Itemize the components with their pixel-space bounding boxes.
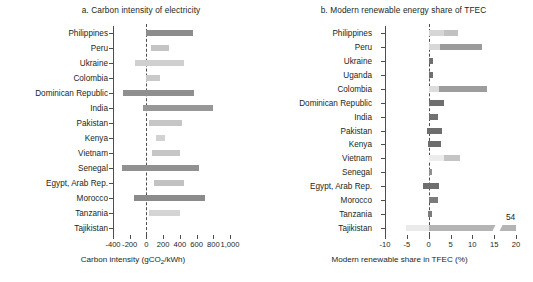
panel-a-category-labels: PhilippinesPeruUkraineColombiaDominican … [0, 26, 108, 235]
panel-a-xtick-label: 1,000 [220, 240, 239, 249]
range-bar [146, 30, 193, 36]
panel-b-ytick [381, 103, 385, 104]
panel-a-ytick [109, 198, 113, 199]
range-bar-segment-left [429, 44, 440, 50]
panel-a-ytick [109, 123, 113, 124]
panel-a-ytick [109, 183, 113, 184]
panel-a-title: a. Carbon intensity of electricity [0, 5, 274, 15]
panel-a-xtick-label: 200 [157, 240, 170, 249]
category-label: India [90, 104, 108, 113]
category-label: Uganda [343, 70, 372, 79]
panel-b-x-axis-title: Modern renewable share in TFEC (%) [266, 255, 533, 264]
range-bar [156, 135, 165, 141]
panel-b-ytick [381, 117, 385, 118]
panel-b-ytick [381, 89, 385, 90]
range-bar [123, 90, 194, 96]
category-label: Vietnam [78, 148, 108, 157]
panel-a-x-axis-title: Carbon intensity (gCO2/kWh) [0, 255, 266, 264]
panel-b-ytick [381, 61, 385, 62]
panel-a-zero-reference-line [146, 24, 147, 235]
panel-a-xtick-label: 800 [207, 240, 220, 249]
category-label: Tajikistan [338, 224, 372, 233]
panel-a-xtick [197, 235, 198, 239]
category-label: Ukraine [344, 56, 372, 65]
range-bar [429, 72, 433, 78]
range-bar [429, 114, 439, 120]
category-label: Morocco [77, 193, 108, 202]
panel-a-xtick [230, 235, 231, 239]
panel-a-xtick [213, 235, 214, 239]
range-bar [152, 150, 180, 156]
category-label: Colombia [337, 84, 372, 93]
panel-b-ytick [381, 47, 385, 48]
category-label: Morocco [341, 196, 372, 205]
panel-a-xtick-label: 600 [190, 240, 203, 249]
panel-b-ytick [381, 75, 385, 76]
panel-b-xtick-label: -5 [403, 240, 410, 249]
range-bar [135, 60, 184, 66]
range-bar [428, 141, 442, 147]
range-bar [427, 128, 441, 134]
range-bar-segment-right [444, 30, 459, 36]
panel-b-xtick [385, 235, 386, 239]
range-bar [149, 210, 180, 216]
panel-b-ytick [381, 172, 385, 173]
panel-b-ytick [381, 214, 385, 215]
range-bar [428, 211, 432, 217]
panel-a-xtick [146, 235, 147, 239]
range-bar [154, 180, 184, 186]
panel-b-ytick [381, 144, 385, 145]
category-label: Philippines [332, 28, 372, 37]
panel-a-xtick [180, 235, 181, 239]
panel-b-xtick-label: 10 [468, 240, 476, 249]
range-bar [429, 197, 438, 203]
panel-b-ytick [381, 200, 385, 201]
range-bar [429, 58, 433, 64]
category-label: Philippines [68, 29, 108, 38]
category-label: Kenya [85, 133, 108, 142]
range-bar [429, 100, 444, 106]
panel-b-category-labels: PhilippinesPeruUkraineUgandaColombiaDomi… [266, 26, 378, 235]
panel-b-xtick [407, 235, 408, 239]
panel-b-ytick [381, 158, 385, 159]
panel-b-xtick-label: 5 [448, 240, 452, 249]
category-label: Egypt, Arab Rep. [46, 178, 108, 187]
panel-a-ytick [109, 93, 113, 94]
range-bar [151, 45, 169, 51]
range-bar-segment-right [440, 44, 482, 50]
panel-a-xtick-label: -200 [122, 240, 137, 249]
category-label: Vietnam [342, 154, 372, 163]
panel-b-xtick [429, 235, 430, 239]
range-bar-segment-right [444, 155, 459, 161]
range-bar-segment-left [429, 30, 444, 36]
bar-value-annotation: 54 [506, 212, 515, 222]
range-bar-segment-left [406, 225, 429, 231]
range-bar-segment-left [429, 86, 439, 92]
panel-a-ytick [109, 228, 113, 229]
category-label: India [354, 112, 372, 121]
panel-b-xtick [494, 235, 495, 239]
category-label: Peru [91, 44, 108, 53]
panel-b-xtick-label: -10 [380, 240, 391, 249]
category-label: Senegal [78, 163, 108, 172]
panel-b-xtick-label: 20 [512, 240, 520, 249]
range-bar [122, 165, 199, 171]
panel-a-plot-area: -400-20002004006008001,000 [113, 26, 230, 235]
category-label: Pakistan [341, 126, 372, 135]
range-bar-segment-left [429, 155, 445, 161]
category-label: Senegal [342, 168, 372, 177]
panel-b-xtick-label: 15 [490, 240, 498, 249]
panel-b-xtick [451, 235, 452, 239]
panel-a-x-axis-title-pre: Carbon intensity (gCO [81, 255, 161, 264]
panel-b-ytick [381, 228, 385, 229]
category-label: Colombia [73, 74, 108, 83]
panel-a-xtick-label: 400 [174, 240, 187, 249]
panel-b-ytick [381, 33, 385, 34]
panel-a-x-axis-title-sub: 2 [161, 259, 164, 265]
panel-a-x-axis-title-post: /kWh) [164, 255, 185, 264]
panel-a-y-axis-spine [113, 26, 114, 235]
category-label: Ukraine [80, 59, 108, 68]
panel-a-ytick [109, 153, 113, 154]
panel-b-xtick [472, 235, 473, 239]
panel-a-xtick-label: 0 [144, 240, 148, 249]
